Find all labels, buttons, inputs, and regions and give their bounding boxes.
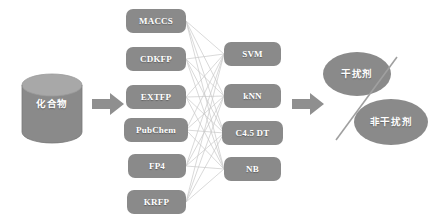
arrow-input-to-fingerprints [92,93,124,115]
classifier-boxes [222,42,283,181]
diagram-shapes [0,0,439,221]
output-ellipses [323,52,428,145]
workflow-diagram: 化合物 MACCS CDKFP EXTFP PubChem FP4 KRFP S… [0,0,439,221]
arrow-classifiers-to-output [292,93,324,115]
fingerprint-boxes [124,9,188,214]
compound-database-cylinder [22,74,82,143]
